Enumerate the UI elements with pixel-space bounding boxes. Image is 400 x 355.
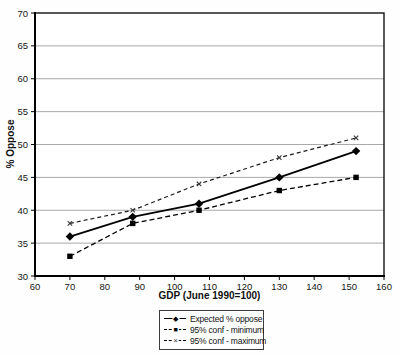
legend-item-conf-minimum: ■ 95% conf - minimum [164,325,261,335]
legend-label-expected: Expected % oppose [187,314,262,324]
y-tick-label: 60 [17,73,28,84]
data-point-square [277,188,282,193]
y-tick-label: 35 [17,238,28,249]
legend-label-conf-minimum: 95% conf - minimum [187,325,264,335]
data-point-square [130,221,135,226]
y-tick-label: 55 [17,106,28,117]
dashed-line-x-icon: × [164,336,187,346]
solid-line-diamond-icon: ◆ [164,314,187,324]
plot-area: 3035404550556065706070809010011012013014… [0,0,400,310]
y-tick-label: 50 [17,139,28,150]
y-tick-label: 30 [17,271,28,282]
dashed-line-square-icon: ■ [164,325,187,335]
y-axis-ticks: 303540455055606570 [17,8,35,282]
data-point-square [67,254,72,259]
y-tick-label: 70 [17,8,28,19]
chart-figure: 3035404550556065706070809010011012013014… [0,0,400,355]
legend: ◆ Expected % oppose ■ 95% conf - minimum… [159,310,264,350]
y-tick-label: 45 [17,172,28,183]
legend-item-conf-maximum: × 95% conf - maximum [164,336,261,346]
y-tick-label: 65 [17,40,28,51]
y-tick-label: 40 [17,205,28,216]
legend-label-conf-maximum: 95% conf - maximum [187,336,266,346]
data-point-square [196,208,201,213]
legend-item-expected: ◆ Expected % oppose [164,314,261,324]
data-point-square [353,175,358,180]
x-axis-title: GDP (June 1990=100) [35,290,384,301]
y-axis-title: % Oppose [5,120,16,169]
